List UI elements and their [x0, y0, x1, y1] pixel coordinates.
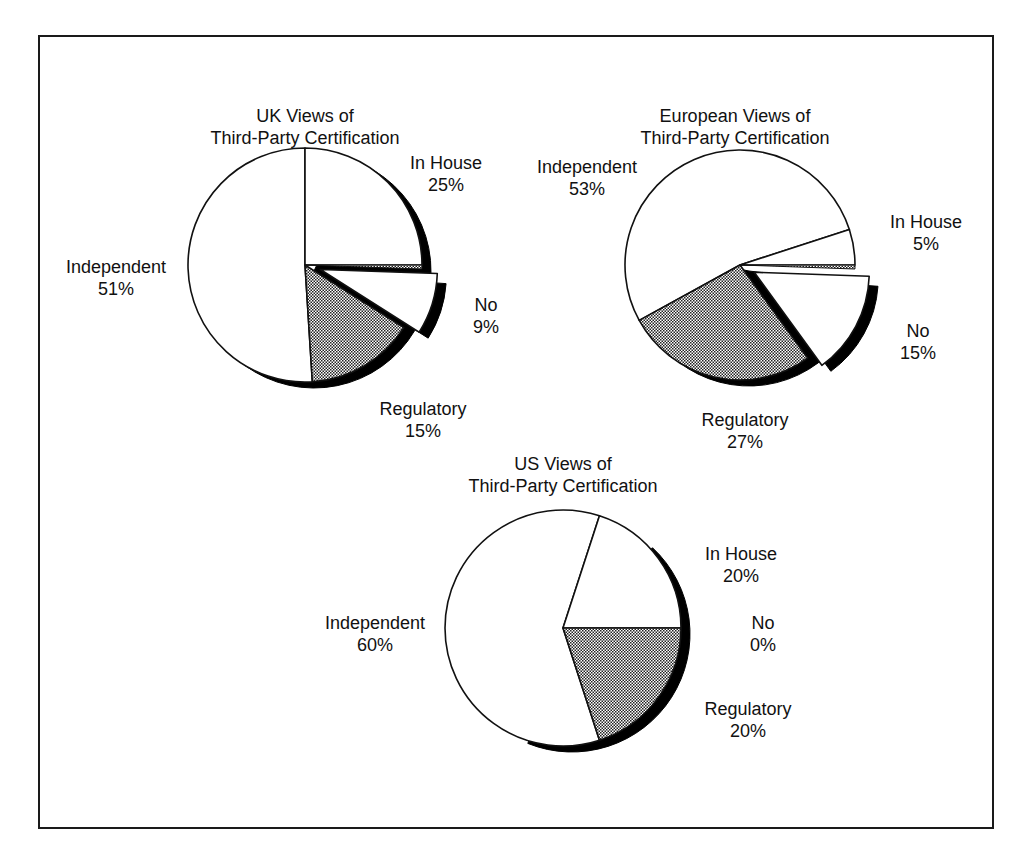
- european-slice-edge-hatch: [740, 265, 855, 269]
- european-label-no: No15%: [900, 320, 936, 364]
- us-chart-title: US Views of Third-Party Certification: [468, 453, 657, 497]
- pie-charts-canvas: [0, 0, 1030, 861]
- uk-label-regulatory: Regulatory15%: [379, 398, 466, 442]
- european-label-independent: Independent53%: [537, 156, 637, 200]
- european-label-in-house: In House5%: [890, 211, 962, 255]
- european-label-regulatory: Regulatory27%: [701, 409, 788, 453]
- us-label-independent: Independent60%: [325, 612, 425, 656]
- european-chart-title: European Views of Third-Party Certificat…: [640, 105, 829, 149]
- uk-slice-in-house: [305, 148, 422, 265]
- uk-chart-title: UK Views of Third-Party Certification: [210, 105, 399, 149]
- us-label-in-house: In House20%: [705, 543, 777, 587]
- us-label-no: No0%: [750, 612, 776, 656]
- uk-label-in-house: In House25%: [410, 152, 482, 196]
- uk-slice-independent: [188, 148, 312, 382]
- uk-label-no: No9%: [473, 294, 499, 338]
- uk-label-independent: Independent51%: [66, 256, 166, 300]
- us-label-regulatory: Regulatory20%: [704, 698, 791, 742]
